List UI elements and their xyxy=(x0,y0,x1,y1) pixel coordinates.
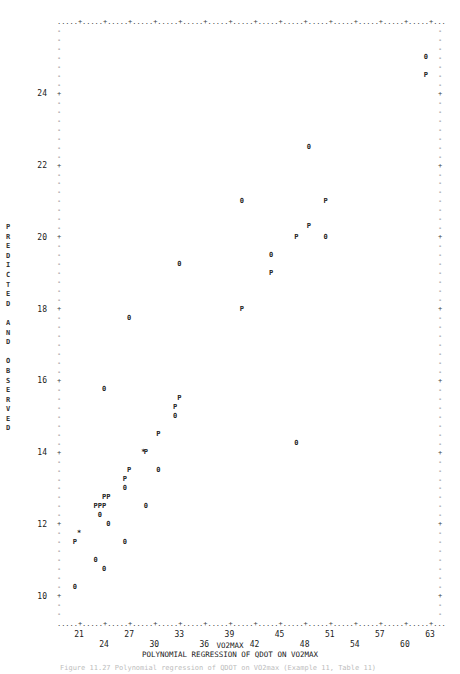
left-axis-mark: + xyxy=(57,592,61,600)
bottom-axis-mark: . xyxy=(442,620,446,628)
y-tick-label: 12 xyxy=(23,520,47,529)
x-tick-label: 33 xyxy=(169,630,189,639)
left-axis-mark: - xyxy=(57,395,61,403)
left-axis-mark: - xyxy=(57,583,61,591)
right-axis-mark: - xyxy=(438,386,442,394)
left-axis-mark: - xyxy=(57,529,61,537)
left-axis-mark: - xyxy=(57,511,61,519)
left-axis-mark: + xyxy=(57,377,61,385)
left-axis-mark: - xyxy=(57,197,61,205)
left-axis-mark: - xyxy=(57,440,61,448)
data-point-predicted: P xyxy=(127,466,131,474)
left-axis-mark: + xyxy=(57,449,61,457)
right-axis-mark: - xyxy=(438,63,442,71)
right-axis-mark: - xyxy=(438,601,442,609)
y-tick-label: 18 xyxy=(23,305,47,314)
data-point-coincident: * xyxy=(77,529,81,537)
data-point-observed: 0 xyxy=(102,565,106,573)
right-axis-mark: - xyxy=(438,323,442,331)
left-axis-mark: - xyxy=(57,171,61,179)
left-axis-mark: - xyxy=(57,188,61,196)
right-axis-mark: - xyxy=(438,171,442,179)
right-axis-mark: - xyxy=(438,287,442,295)
data-point-predicted: P xyxy=(123,475,127,483)
right-axis-mark: - xyxy=(438,269,442,277)
left-axis-mark: - xyxy=(57,296,61,304)
right-axis-mark: - xyxy=(438,610,442,618)
right-axis-mark: - xyxy=(438,296,442,304)
data-point-observed: 0 xyxy=(73,583,77,591)
left-axis-mark: - xyxy=(57,45,61,53)
left-axis-mark: - xyxy=(57,144,61,152)
left-axis-mark: + xyxy=(57,162,61,170)
right-axis-mark: - xyxy=(438,197,442,205)
right-axis-mark: - xyxy=(438,350,442,358)
data-point-observed: 0 xyxy=(177,260,181,268)
left-axis-mark: - xyxy=(57,126,61,134)
data-point-observed: 0 xyxy=(106,520,110,528)
data-point-observed: 0 xyxy=(94,556,98,564)
x-tick-label: 27 xyxy=(119,630,139,639)
y-axis-label: P R E D I C T E D A N D O B S E R V E D xyxy=(4,223,12,434)
left-axis-mark: - xyxy=(57,574,61,582)
right-axis-mark: - xyxy=(438,538,442,546)
data-point-predicted: P xyxy=(424,71,428,79)
y-tick-label: 20 xyxy=(23,233,47,242)
right-axis-mark: - xyxy=(438,493,442,501)
right-axis-mark: + xyxy=(438,449,442,457)
left-axis-mark: - xyxy=(57,476,61,484)
data-point-observed: 0 xyxy=(240,197,244,205)
scatter-plot: .....+.....+.....+.....+.....+.....+....… xyxy=(0,0,460,674)
figure-caption: Figure 11.27 Polynomial regression of QD… xyxy=(60,664,376,672)
left-axis-mark: - xyxy=(57,458,61,466)
data-point-observed: 0 xyxy=(144,502,148,510)
right-axis-mark: - xyxy=(438,153,442,161)
right-axis-mark: - xyxy=(438,565,442,573)
left-axis-mark: - xyxy=(57,99,61,107)
left-axis-mark: - xyxy=(57,368,61,376)
data-point-predicted: P xyxy=(294,233,298,241)
left-axis-mark: - xyxy=(57,610,61,618)
right-axis-mark: - xyxy=(438,251,442,259)
right-axis-mark: - xyxy=(438,206,442,214)
left-axis-mark: - xyxy=(57,153,61,161)
left-axis-mark: - xyxy=(57,484,61,492)
data-point-predicted: P xyxy=(173,403,177,411)
right-axis-mark: - xyxy=(438,72,442,80)
left-axis-mark: - xyxy=(57,63,61,71)
right-axis-mark: - xyxy=(438,341,442,349)
right-axis-mark: - xyxy=(438,529,442,537)
left-axis-mark: - xyxy=(57,287,61,295)
left-axis-mark: - xyxy=(57,72,61,80)
right-axis-mark: - xyxy=(438,368,442,376)
data-point-observed: 0 xyxy=(102,385,106,393)
right-axis-mark: - xyxy=(438,45,442,53)
left-axis-mark: - xyxy=(57,467,61,475)
data-point-predicted: P xyxy=(307,222,311,230)
data-point-predicted: P xyxy=(177,394,181,402)
right-axis-mark: + xyxy=(438,592,442,600)
right-axis-mark: - xyxy=(438,332,442,340)
left-axis-mark: - xyxy=(57,242,61,250)
right-axis-mark: - xyxy=(438,467,442,475)
right-axis-mark: + xyxy=(438,305,442,313)
right-axis-mark: - xyxy=(438,108,442,116)
left-axis-mark: - xyxy=(57,332,61,340)
x-tick-label: 57 xyxy=(370,630,390,639)
right-axis-mark: - xyxy=(438,484,442,492)
left-axis-mark: - xyxy=(57,404,61,412)
data-point-observed: 0 xyxy=(269,251,273,259)
left-axis-mark: - xyxy=(57,601,61,609)
left-axis-mark: - xyxy=(57,36,61,44)
y-tick-label: 16 xyxy=(23,376,47,385)
left-axis-mark: + xyxy=(57,233,61,241)
left-axis-mark: - xyxy=(57,413,61,421)
y-tick-label: 14 xyxy=(23,448,47,457)
right-axis-mark: + xyxy=(438,162,442,170)
left-axis-mark: - xyxy=(57,350,61,358)
data-point-predicted: P xyxy=(73,538,77,546)
left-axis-mark: - xyxy=(57,260,61,268)
data-point-observed: 0 xyxy=(98,511,102,519)
left-axis-mark: - xyxy=(57,206,61,214)
right-axis-mark: - xyxy=(438,574,442,582)
